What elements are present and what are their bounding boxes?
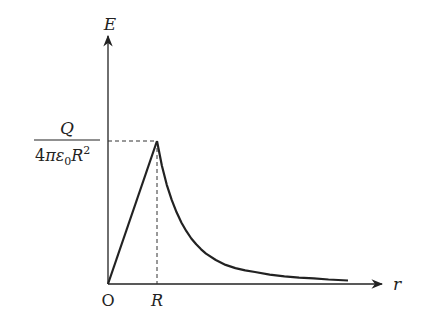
- fraction-numerator: Q: [60, 118, 74, 138]
- fraction-denominator: 4πε0R2: [35, 144, 90, 168]
- x-axis-label: r: [393, 274, 402, 294]
- field-outside-curve: [157, 141, 348, 281]
- peak-value-label: Q 4πε0R2: [34, 118, 100, 168]
- e-field-diagram: E r O R Q 4πε0R2: [0, 0, 431, 336]
- field-inside-line: [108, 141, 157, 284]
- y-axis-label: E: [103, 14, 117, 34]
- R-label: R: [150, 291, 163, 310]
- origin-label: O: [101, 291, 114, 310]
